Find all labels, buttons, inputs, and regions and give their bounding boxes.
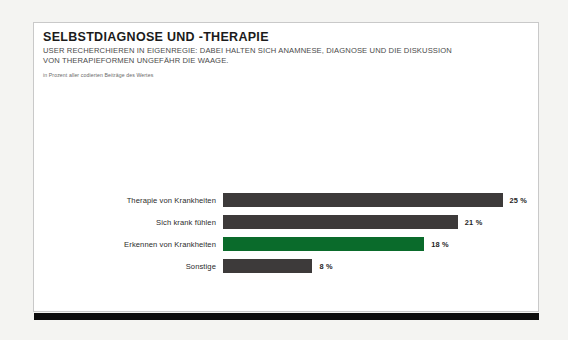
bar-track: 25 %: [223, 189, 536, 211]
bar-row: Sich krank fühlen21 %: [34, 211, 540, 233]
bar-value-label: 25 %: [510, 196, 528, 205]
bar-chart-plot: Therapie von Krankheiten25 %Sich krank f…: [34, 189, 540, 277]
bar-category-label: Sich krank fühlen: [34, 218, 216, 227]
bar-value-label: 8 %: [319, 262, 332, 271]
bar-category-label: Therapie von Krankheiten: [34, 196, 216, 205]
bar: [223, 193, 503, 207]
page-title: SELBSTDIAGNOSE UND -THERAPIE: [43, 30, 530, 44]
bar-track: 8 %: [223, 255, 536, 277]
bar-row: Erkennen von Krankheiten18 %: [34, 233, 540, 255]
bar-category-label: Erkennen von Krankheiten: [34, 240, 216, 249]
bar-highlight: [223, 237, 424, 251]
chart-subtitle-line-1: USER RECHERCHIEREN IN EIGENREGIE: DABEI …: [43, 46, 530, 56]
bottom-rule: [34, 313, 539, 320]
bar-row: Therapie von Krankheiten25 %: [34, 189, 540, 211]
chart-subtitle-line-2: VON THERAPIEFORMEN UNGEFÄHR DIE WAAGE.: [43, 56, 530, 66]
bar-value-label: 21 %: [465, 218, 483, 227]
bar: [223, 259, 312, 273]
bar: [223, 215, 458, 229]
chart-header: SELBSTDIAGNOSE UND -THERAPIE USER RECHER…: [43, 30, 530, 78]
bar-category-label: Sonstige: [34, 262, 216, 271]
bar-track: 21 %: [223, 211, 536, 233]
screenshot-root: SELBSTDIAGNOSE UND -THERAPIE USER RECHER…: [0, 0, 568, 340]
bar-value-label: 18 %: [431, 240, 449, 249]
chart-source-note: in Prozent aller codierten Beiträge des …: [43, 72, 530, 78]
bar-row: Sonstige8 %: [34, 255, 540, 277]
bar-track: 18 %: [223, 233, 536, 255]
chart-card: SELBSTDIAGNOSE UND -THERAPIE USER RECHER…: [33, 22, 539, 312]
